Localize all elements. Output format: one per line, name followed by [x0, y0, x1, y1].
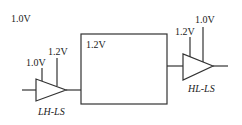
hl-supply-out-label: 1.0V	[195, 15, 215, 25]
lh-supply-out-label: 1.2V	[48, 47, 68, 57]
lh-ls-buffer	[36, 79, 66, 101]
lh-supply-in-label: 1.0V	[26, 58, 46, 68]
hl-ls-buffer	[183, 54, 213, 80]
lh-ls-name: LH-LS	[38, 107, 65, 117]
hl-supply-in-label: 1.2V	[175, 27, 195, 37]
global-domain-label: 1.0V	[11, 14, 31, 24]
hl-ls-name: HL-LS	[188, 84, 215, 94]
core-block-label: 1.2V	[86, 40, 106, 50]
